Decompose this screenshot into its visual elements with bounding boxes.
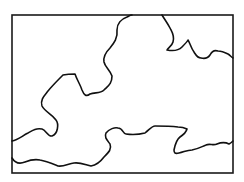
upper-right-boundary-line — [162, 15, 233, 58]
map-figure — [0, 0, 244, 182]
upper-boundary-line — [12, 15, 132, 141]
